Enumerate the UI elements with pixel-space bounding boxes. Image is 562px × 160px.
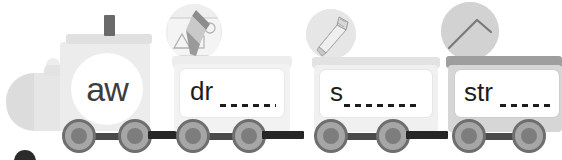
engine-nose-shade: [34, 73, 62, 131]
wheel-hub: [71, 128, 87, 144]
coupler: [406, 131, 448, 139]
wheel-hub: [385, 128, 401, 144]
wheel-hub: [241, 128, 257, 144]
straw-picture-icon: [441, 2, 499, 60]
coupler: [262, 131, 304, 139]
wheel-hub: [185, 128, 201, 144]
saw-picture-icon: [306, 9, 356, 59]
train-worksheet-illustration: aw: [0, 0, 562, 160]
page-corner-mark: [14, 150, 36, 160]
answer-blank-line: [344, 104, 418, 107]
blend-prefix: dr: [190, 76, 213, 107]
answer-blank-line: [500, 104, 552, 107]
answer-blank-line: [220, 104, 276, 107]
steam-dome-cap: [46, 58, 60, 65]
wheel-hub: [521, 128, 537, 144]
drawing-picture-icon: [166, 4, 222, 60]
blend-prefix: s: [330, 77, 343, 108]
wheel-hub: [323, 128, 339, 144]
engine-label: aw: [71, 53, 143, 125]
wheel-hub: [127, 128, 143, 144]
wheel-hub: [461, 128, 477, 144]
blend-prefix: str: [464, 77, 493, 108]
chimney-icon: [104, 15, 115, 36]
